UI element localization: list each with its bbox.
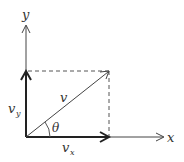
angle-label: θ <box>52 121 60 135</box>
x-axis-label: x <box>167 130 175 145</box>
y-axis-label: y <box>21 7 30 22</box>
vector-components-diagram: y x v θ v y v x <box>0 0 184 162</box>
svg-text:x: x <box>70 148 75 157</box>
vector-label: v <box>60 90 68 105</box>
vy-label: v y <box>8 101 21 118</box>
svg-text:v: v <box>62 140 70 155</box>
svg-text:y: y <box>15 109 21 118</box>
angle-arc <box>45 122 50 137</box>
svg-text:v: v <box>8 101 16 116</box>
vx-label: v x <box>62 140 75 157</box>
